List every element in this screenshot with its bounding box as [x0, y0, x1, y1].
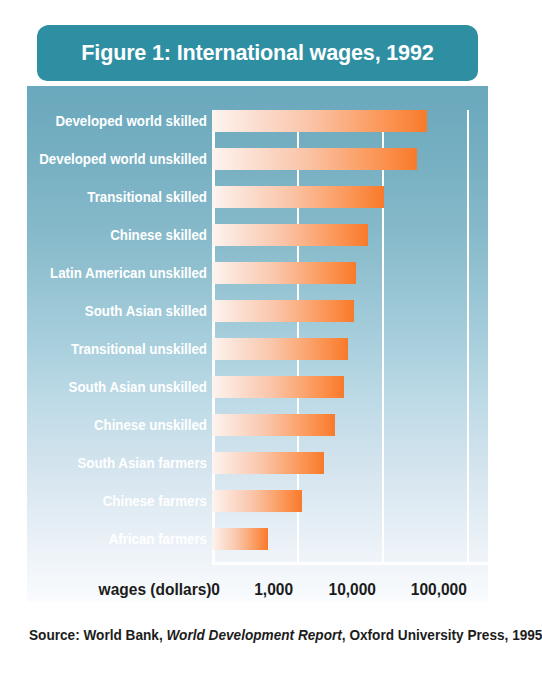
chart-panel: Developed world skilledDeveloped world u… [27, 86, 488, 602]
category-label-row: Latin American unskilled [27, 262, 207, 284]
source-prefix: Source: World Bank, [29, 627, 166, 643]
source-line: Source: World Bank, World Development Re… [29, 627, 480, 643]
category-label-transitional-skilled: Transitional skilled [36, 186, 207, 208]
bar-south-asian-skilled [212, 300, 354, 322]
category-label-row: Chinese skilled [27, 224, 207, 246]
bar-transitional-skilled [212, 186, 384, 208]
bar-south-asian-farmers [212, 452, 324, 474]
category-label-developed-world-skilled: Developed world skilled [36, 110, 207, 132]
category-label-transitional-unskilled: Transitional unskilled [36, 338, 207, 360]
bar-chinese-skilled [212, 224, 368, 246]
source-italic-title: World Development Report [166, 627, 341, 643]
axis-bottom-line [212, 562, 497, 565]
category-label-developed-world-unskilled: Developed world unskilled [36, 148, 207, 170]
category-label-row: South Asian unskilled [27, 376, 207, 398]
gridline-10000 [382, 110, 384, 565]
category-label-african-farmers: African farmers [36, 528, 207, 550]
bar-developed-world-skilled [212, 110, 427, 132]
x-tick-10000: 10,000 [329, 580, 376, 599]
category-label-chinese-farmers: Chinese farmers [36, 490, 207, 512]
category-label-row: Chinese unskilled [27, 414, 207, 436]
x-tick-1000: 1,000 [254, 580, 293, 599]
category-label-latin-american-unskilled: Latin American unskilled [36, 262, 207, 284]
x-tick-100000: 100,000 [411, 580, 467, 599]
category-label-chinese-unskilled: Chinese unskilled [36, 414, 207, 436]
category-label-row: Developed world skilled [27, 110, 207, 132]
category-label-south-asian-skilled: South Asian skilled [36, 300, 207, 322]
bar-african-farmers [212, 528, 268, 550]
category-label-row: South Asian farmers [27, 452, 207, 474]
category-label-south-asian-unskilled: South Asian unskilled [36, 376, 207, 398]
bar-transitional-unskilled [212, 338, 348, 360]
x-axis-title: wages (dollars) [99, 580, 212, 599]
bar-chinese-farmers [212, 490, 302, 512]
bar-chinese-unskilled [212, 414, 335, 436]
category-label-chinese-skilled: Chinese skilled [36, 224, 207, 246]
category-label-south-asian-farmers: South Asian farmers [36, 452, 207, 474]
category-label-row: Transitional skilled [27, 186, 207, 208]
figure-title: Figure 1: International wages, 1992 [81, 40, 433, 66]
source-suffix: , Oxford University Press, 1995 [342, 627, 542, 643]
category-label-row: African farmers [27, 528, 207, 550]
title-banner: Figure 1: International wages, 1992 [37, 25, 478, 81]
bar-south-asian-unskilled [212, 376, 344, 398]
x-tick-0: 0 [211, 580, 220, 599]
bar-developed-world-unskilled [212, 148, 417, 170]
bar-latin-american-unskilled [212, 262, 356, 284]
gridline-100000 [467, 110, 469, 565]
category-label-row: Transitional unskilled [27, 338, 207, 360]
x-axis-labels: wages (dollars) 01,00010,000100,000 [27, 580, 488, 606]
category-label-row: Developed world unskilled [27, 148, 207, 170]
category-label-row: Chinese farmers [27, 490, 207, 512]
category-label-row: South Asian skilled [27, 300, 207, 322]
plot-area [212, 110, 494, 565]
